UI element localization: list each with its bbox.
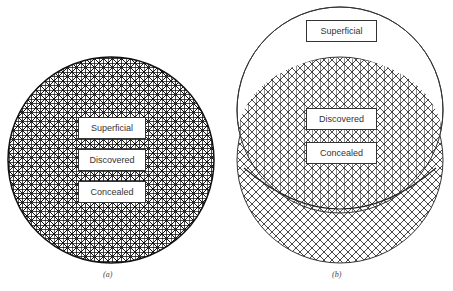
panel-b-caption: (b) — [332, 270, 341, 279]
panel-a-superficial-label: Superficial — [78, 117, 146, 139]
panel-b-discovered-label: Discovered — [306, 108, 377, 130]
panel-a-discovered-label: Discovered — [78, 149, 146, 171]
panel-b-superficial-label: Superficial — [306, 20, 377, 42]
panel-b-concealed-label: Concealed — [306, 142, 377, 164]
panel-a-caption: (a) — [103, 270, 112, 279]
panel-a-concealed-label: Concealed — [78, 181, 146, 203]
diagram-canvas — [0, 0, 453, 291]
